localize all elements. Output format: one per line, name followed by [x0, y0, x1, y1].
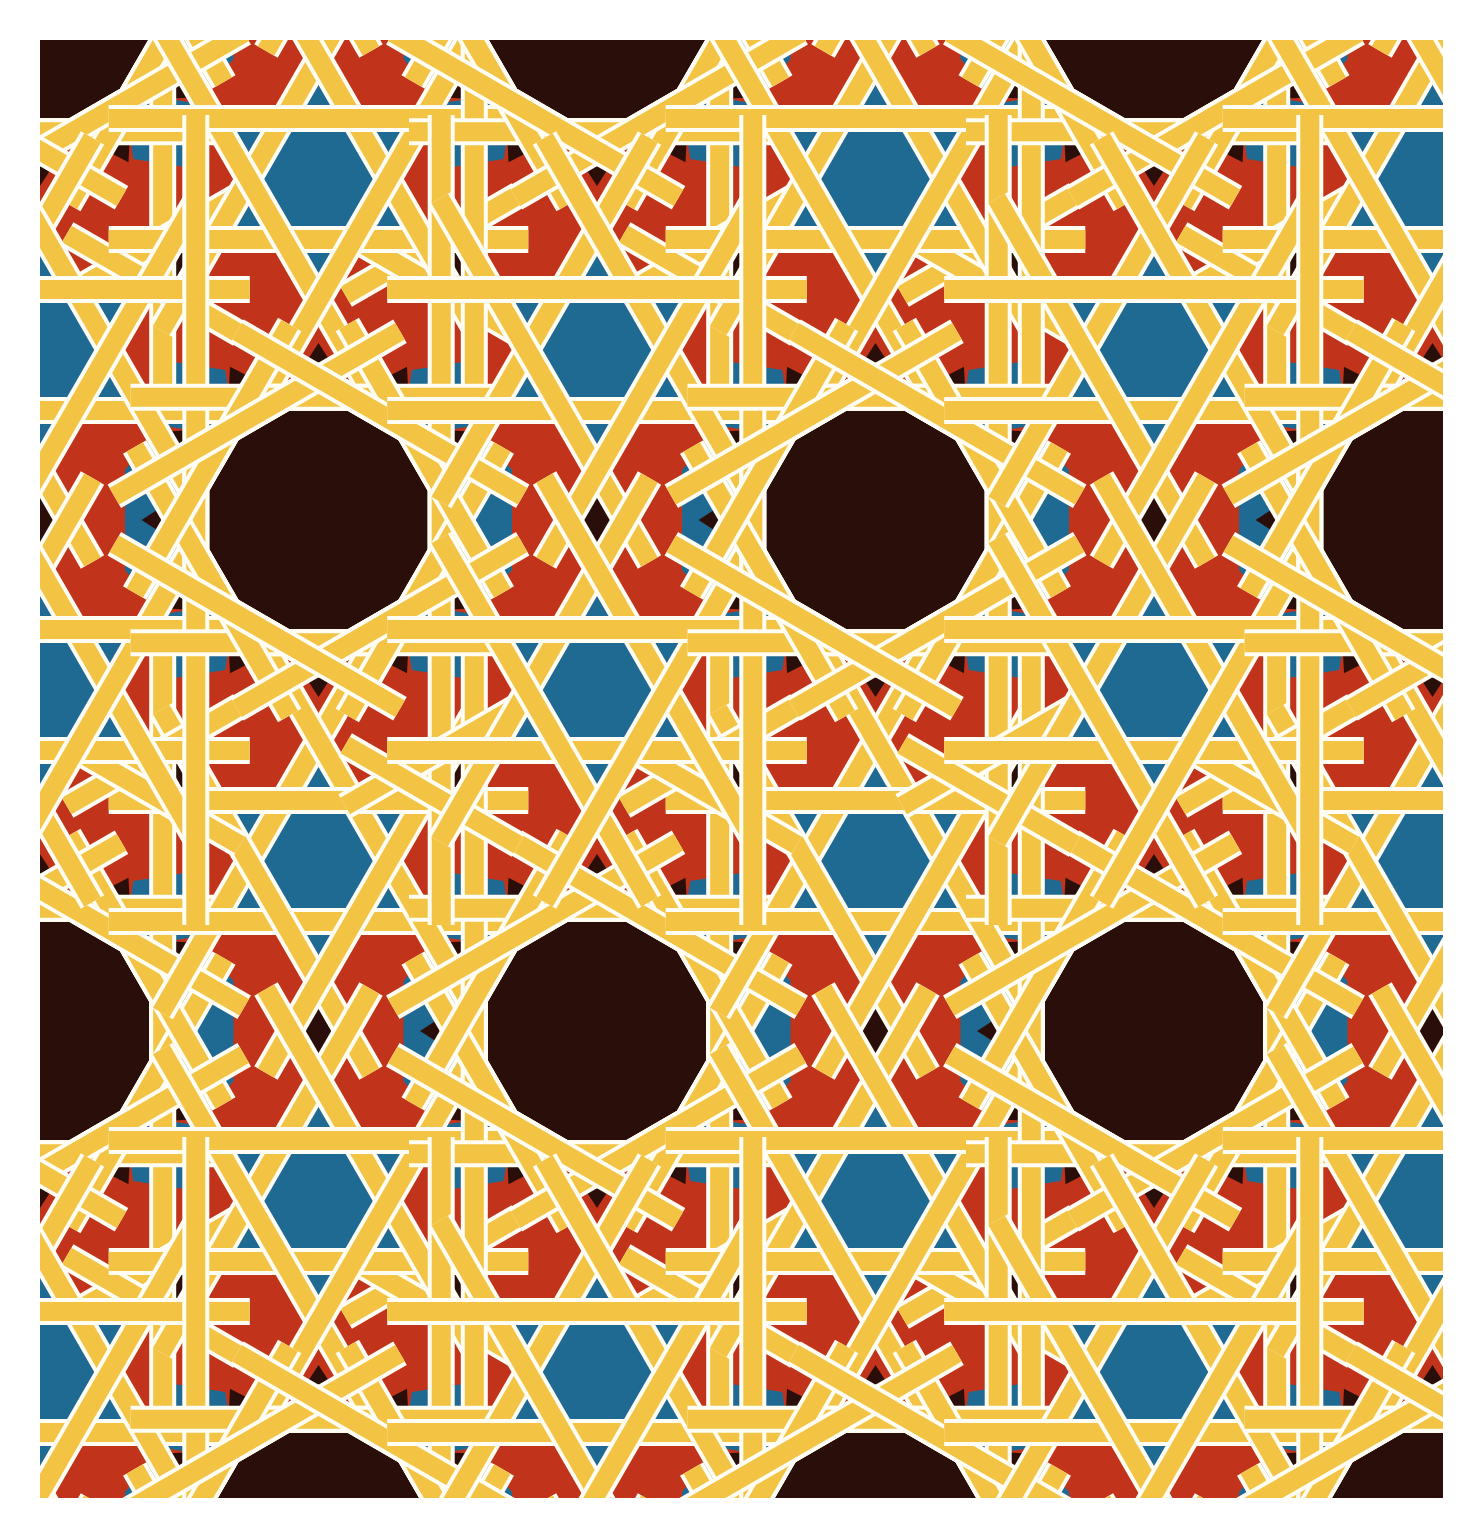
scanned-plate-page [0, 0, 1483, 1538]
pattern-field [40, 40, 1443, 1498]
pattern-artwork [0, 0, 1483, 1538]
pattern-plate-svg [0, 0, 1483, 1538]
